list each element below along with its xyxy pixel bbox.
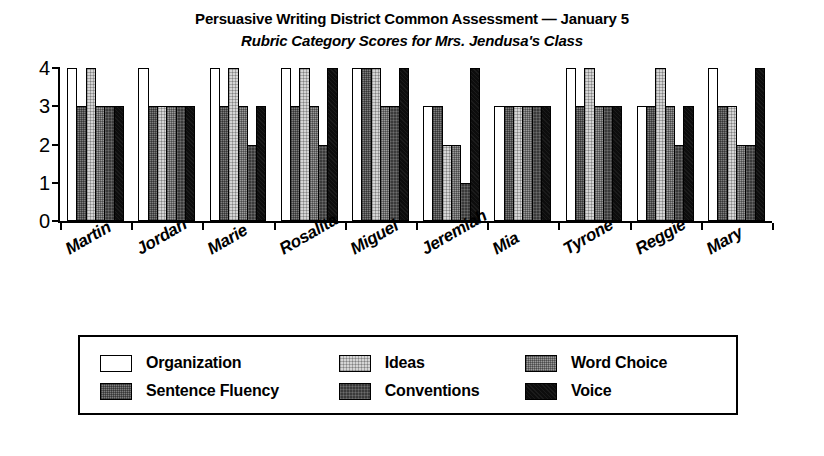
legend-label: Voice bbox=[571, 382, 612, 400]
x-tick-mark bbox=[701, 223, 703, 230]
y-tick-mark bbox=[52, 67, 60, 69]
legend-item-conventions[interactable]: Conventions bbox=[339, 382, 525, 400]
bar-marie-voice[interactable] bbox=[256, 106, 266, 221]
legend-label: Organization bbox=[146, 354, 241, 372]
legend-item-ideas[interactable]: Ideas bbox=[339, 354, 525, 372]
chart-subtitle: Rubric Category Scores for Mrs. Jendusa'… bbox=[0, 30, 824, 52]
x-tick-mark bbox=[60, 223, 62, 230]
x-axis-category-labels: MartinJordanMarieRosalitaMiguelJeremiahM… bbox=[0, 240, 824, 310]
legend-swatch-voice bbox=[525, 383, 557, 400]
legend-swatch-word-choice bbox=[525, 355, 557, 372]
bar-group-reggie bbox=[637, 68, 694, 221]
y-tick-mark bbox=[52, 182, 60, 184]
bar-martin-voice[interactable] bbox=[114, 106, 124, 221]
bar-rosalita-voice[interactable] bbox=[327, 68, 337, 221]
bar-group-mary bbox=[708, 68, 765, 221]
legend-label: Sentence Fluency bbox=[146, 382, 279, 400]
y-tick-label: 0 bbox=[24, 211, 50, 231]
x-tick-mark bbox=[630, 223, 632, 230]
legend-swatch-ideas bbox=[339, 355, 371, 372]
legend-item-voice[interactable]: Voice bbox=[525, 382, 716, 400]
legend-item-word-choice[interactable]: Word Choice bbox=[525, 354, 716, 372]
bar-jeremiah-voice[interactable] bbox=[470, 68, 480, 221]
legend-label: Ideas bbox=[385, 354, 425, 372]
legend-swatch-conventions bbox=[339, 383, 371, 400]
y-tick-mark bbox=[52, 220, 60, 222]
y-tick-mark bbox=[52, 105, 60, 107]
legend-item-sentence-fluency[interactable]: Sentence Fluency bbox=[100, 382, 339, 400]
bar-group-martin bbox=[67, 68, 124, 221]
x-tick-mark bbox=[558, 223, 560, 230]
y-axis-tick-labels: 01234 bbox=[24, 68, 50, 223]
bar-group-tyrone bbox=[566, 68, 623, 221]
bar-group-mia bbox=[494, 68, 551, 221]
legend-swatch-sentence-fluency bbox=[100, 383, 132, 400]
legend-swatch-organization bbox=[100, 355, 132, 372]
bar-tyrone-voice[interactable] bbox=[612, 106, 622, 221]
x-tick-mark bbox=[131, 223, 133, 230]
x-tick-mark bbox=[416, 223, 418, 230]
bar-group-jordan bbox=[138, 68, 195, 221]
legend-label: Conventions bbox=[385, 382, 480, 400]
bar-group-rosalita bbox=[281, 68, 338, 221]
bar-jordan-voice[interactable] bbox=[185, 106, 195, 221]
legend-label: Word Choice bbox=[571, 354, 667, 372]
y-tick-label: 4 bbox=[24, 58, 50, 78]
legend-item-organization[interactable]: Organization bbox=[100, 354, 339, 372]
bar-group-jeremiah bbox=[423, 68, 480, 221]
bar-miguel-voice[interactable] bbox=[399, 68, 409, 221]
bar-group-miguel bbox=[352, 68, 409, 221]
y-tick-label: 2 bbox=[24, 135, 50, 155]
y-tick-label: 3 bbox=[24, 96, 50, 116]
bar-mary-voice[interactable] bbox=[755, 68, 765, 221]
y-tick-label: 1 bbox=[24, 173, 50, 193]
chart-plot-region: 01234 bbox=[0, 68, 824, 248]
x-tick-mark bbox=[772, 223, 774, 230]
x-tick-mark bbox=[274, 223, 276, 230]
x-tick-mark bbox=[345, 223, 347, 230]
chart-titles: Persuasive Writing District Common Asses… bbox=[0, 0, 824, 52]
legend-row: Sentence Fluency Conventions Voice bbox=[100, 377, 716, 405]
bar-mia-voice[interactable] bbox=[541, 106, 551, 221]
chart-title: Persuasive Writing District Common Asses… bbox=[0, 8, 824, 30]
y-tick-mark bbox=[52, 144, 60, 146]
chart-legend: Organization Ideas Word Choice Sentence … bbox=[78, 335, 738, 415]
x-tick-mark bbox=[202, 223, 204, 230]
bar-reggie-voice[interactable] bbox=[683, 106, 693, 221]
bars-container bbox=[60, 68, 772, 221]
legend-row: Organization Ideas Word Choice bbox=[100, 349, 716, 377]
bar-group-marie bbox=[210, 68, 267, 221]
